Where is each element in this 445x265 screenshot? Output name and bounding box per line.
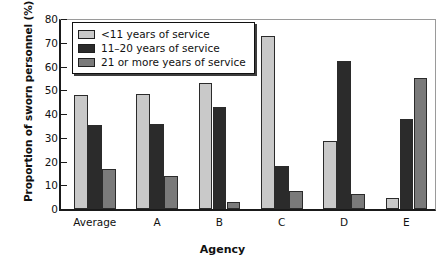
bar xyxy=(199,83,213,209)
bar xyxy=(227,202,241,209)
legend-swatch-icon xyxy=(78,30,95,39)
bar xyxy=(351,194,365,209)
bar xyxy=(400,119,414,209)
legend-label: 21 or more years of service xyxy=(101,57,246,68)
y-axis-title: Proportion of sworn personnel (%) xyxy=(22,2,34,202)
legend-item: <11 years of service xyxy=(78,27,246,41)
legend: <11 years of service11–20 years of servi… xyxy=(72,22,255,74)
bar xyxy=(88,125,102,209)
bar xyxy=(150,124,164,210)
x-tick-label: D xyxy=(340,216,348,228)
bar xyxy=(136,94,150,209)
x-tick-label: B xyxy=(216,216,223,228)
bar-group xyxy=(261,19,303,209)
x-tick-label: C xyxy=(278,216,285,228)
bar-group xyxy=(386,19,428,209)
legend-item: 11–20 years of service xyxy=(78,41,246,55)
bar xyxy=(261,36,275,209)
bar xyxy=(386,198,400,209)
bar xyxy=(102,169,116,209)
legend-swatch-icon xyxy=(78,44,95,53)
legend-label: 11–20 years of service xyxy=(101,43,220,54)
x-tick-label: Average xyxy=(73,216,116,228)
bar-chart: Proportion of sworn personnel (%) 010203… xyxy=(0,0,445,265)
y-tick-label: 0 xyxy=(28,204,58,215)
bar xyxy=(213,107,227,209)
x-axis-title: Agency xyxy=(0,243,445,256)
bar xyxy=(323,141,337,209)
x-tick-label: E xyxy=(403,216,410,228)
bar xyxy=(414,78,428,209)
legend-swatch-icon xyxy=(78,58,95,67)
legend-item: 21 or more years of service xyxy=(78,55,246,69)
bar xyxy=(289,191,303,209)
bar xyxy=(74,95,88,209)
bar xyxy=(164,176,178,209)
x-tick-label: A xyxy=(153,216,160,228)
legend-label: <11 years of service xyxy=(101,29,210,40)
bar-group xyxy=(323,19,365,209)
bar xyxy=(337,61,351,209)
bar xyxy=(275,166,289,209)
